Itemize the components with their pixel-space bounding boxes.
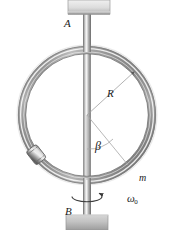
physics-diagram: A B R β m ω0 (0, 0, 176, 230)
support-block-bottom (66, 215, 108, 230)
omega-subscript: 0 (134, 198, 138, 206)
support-bracket-top (68, 0, 110, 15)
diagram-canvas (0, 0, 176, 230)
center-to-bead-line (87, 115, 128, 165)
label-angle-beta: β (95, 140, 101, 152)
label-bead-mass: m (139, 173, 146, 183)
label-support-a: A (64, 18, 71, 29)
label-angular-velocity: ω0 (127, 193, 138, 206)
label-support-b: B (65, 206, 72, 217)
label-radius: R (107, 88, 114, 99)
